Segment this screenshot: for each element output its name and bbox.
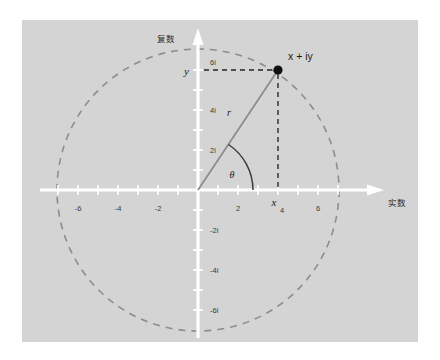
x-tick-label-2: 2 <box>236 204 240 213</box>
complex-point-marker <box>273 65 282 74</box>
point-label: x + iy <box>288 50 314 62</box>
real-axis-label: 实数 <box>388 198 406 208</box>
y-tick-label-2i: 2i <box>210 146 216 155</box>
imaginary-axis-arrowhead <box>193 28 204 45</box>
x-tick-label-neg2: -2 <box>155 204 162 213</box>
y-tick-label-neg6i: -6i <box>210 306 219 315</box>
angle-label: θ <box>230 169 235 180</box>
x-tick-label-neg6: -6 <box>75 204 82 213</box>
complex-plane-svg: 复数 实数 x + iy r θ y x -6 -4 -2 2 4 6 6i 4… <box>22 20 418 342</box>
y-component-label: y <box>183 65 189 77</box>
x-component-label: x <box>271 196 277 208</box>
x-tick-label-6: 6 <box>316 204 320 213</box>
y-tick-label-6i: 6i <box>210 58 216 67</box>
real-axis-arrowhead <box>367 185 384 196</box>
x-tick-label-neg4: -4 <box>115 204 122 213</box>
y-tick-label-neg4i: -4i <box>210 266 219 275</box>
radius-line <box>198 70 278 190</box>
complex-plane-figure: 复数 实数 x + iy r θ y x -6 -4 -2 2 4 6 6i 4… <box>22 20 418 342</box>
x-tick-label-4: 4 <box>280 206 284 215</box>
angle-arc <box>229 145 254 191</box>
imaginary-axis-label: 复数 <box>157 34 175 44</box>
y-tick-label-neg2i: -2i <box>210 226 219 235</box>
radius-label: r <box>227 107 231 118</box>
y-tick-label-4i: 4i <box>210 106 216 115</box>
